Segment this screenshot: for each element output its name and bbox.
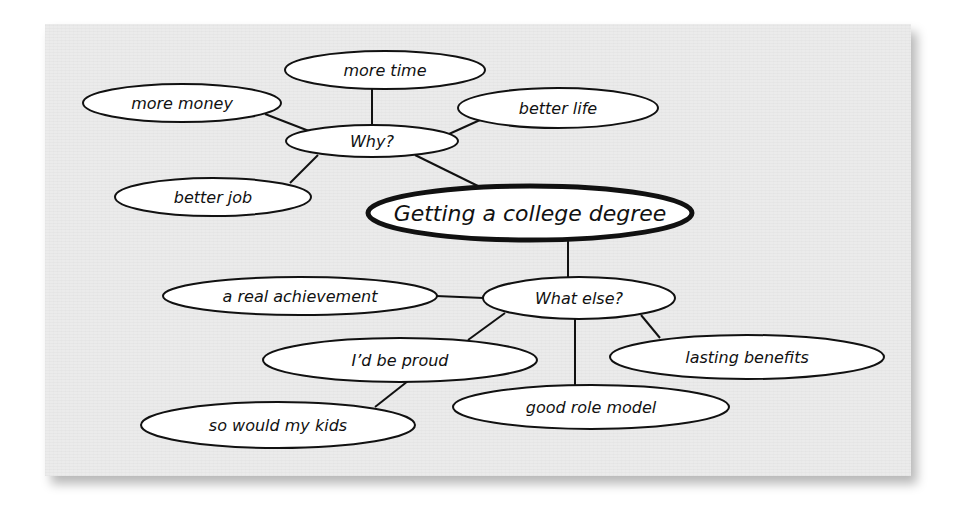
node-label: I’d be proud	[352, 351, 450, 370]
edge-why-better-life	[449, 120, 480, 134]
edge-why-main	[415, 155, 482, 188]
node-why: Why?	[286, 125, 458, 157]
node-better-life: better life	[458, 88, 658, 128]
edge-proud-kids	[375, 381, 408, 407]
cluster-diagram: more time more money better life Why? be…	[0, 0, 964, 508]
node-better-job: better job	[115, 178, 311, 216]
node-proud: I’d be proud	[263, 338, 537, 382]
node-what-else: What else?	[483, 277, 675, 319]
node-lasting-benefits: lasting benefits	[610, 335, 884, 379]
edge-why-better-job	[290, 155, 318, 183]
node-label: better job	[174, 188, 252, 207]
node-kids: so would my kids	[141, 402, 415, 448]
edge-what-else-proud	[468, 313, 505, 340]
edge-what-else-achievement	[436, 296, 484, 298]
node-label: What else?	[535, 289, 624, 308]
node-main-topic: Getting a college degree	[368, 186, 692, 240]
node-label: lasting benefits	[685, 348, 809, 367]
node-role-model: good role model	[453, 385, 729, 429]
node-label: Why?	[350, 132, 394, 151]
node-label: a real achievement	[223, 287, 379, 306]
node-label: good role model	[526, 398, 657, 417]
edge-why-more-money	[265, 114, 309, 131]
node-label: more money	[131, 94, 233, 113]
node-label: more time	[343, 61, 426, 80]
edge-what-else-lasting	[641, 315, 660, 338]
node-real-achievement: a real achievement	[163, 277, 437, 315]
node-more-time: more time	[285, 51, 485, 89]
node-label: better life	[519, 99, 598, 118]
main-topic-label: Getting a college degree	[394, 201, 667, 226]
node-label: so would my kids	[209, 416, 347, 435]
node-more-money: more money	[83, 84, 281, 122]
